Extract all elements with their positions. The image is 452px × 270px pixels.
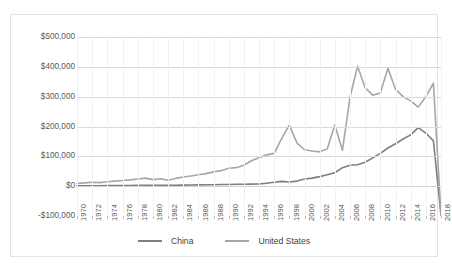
y-tick-label: $300,000 xyxy=(13,93,75,101)
x-tick xyxy=(426,216,427,219)
x-tick-label: 2000 xyxy=(308,204,316,221)
vertical-gridline xyxy=(244,37,245,216)
vertical-gridline xyxy=(107,37,108,216)
y-tick-label: $500,000 xyxy=(13,33,75,41)
x-tick xyxy=(396,216,397,219)
legend-item[interactable]: China xyxy=(138,236,193,246)
vertical-gridline xyxy=(123,37,124,216)
x-tick xyxy=(289,216,290,219)
x-tick xyxy=(77,216,78,219)
x-tick xyxy=(350,216,351,219)
y-tick-label: $100,000 xyxy=(13,152,75,160)
x-tick xyxy=(411,216,412,219)
vertical-gridline xyxy=(183,37,184,216)
plot-area xyxy=(77,37,441,216)
y-tick-label: $200,000 xyxy=(13,123,75,131)
y-tick-label: $400,000 xyxy=(13,63,75,71)
x-tick xyxy=(320,216,321,219)
vertical-gridline xyxy=(365,37,366,216)
x-tick-label: 1976 xyxy=(126,204,134,221)
x-tick-label: 2008 xyxy=(368,204,376,221)
x-tick-label: 1988 xyxy=(217,204,225,221)
x-tick xyxy=(92,216,93,219)
vertical-gridline xyxy=(289,37,290,216)
vertical-gridline xyxy=(350,37,351,216)
vertical-gridline xyxy=(153,37,154,216)
x-tick-label: 1982 xyxy=(171,204,179,221)
vertical-gridline xyxy=(396,37,397,216)
x-tick xyxy=(138,216,139,219)
x-tick-label: 1992 xyxy=(247,204,255,221)
x-tick-label: 1996 xyxy=(277,204,285,221)
x-tick xyxy=(274,216,275,219)
x-tick-label: 2006 xyxy=(353,204,361,221)
legend-swatch-icon xyxy=(225,240,249,243)
x-tick xyxy=(153,216,154,219)
vertical-gridline xyxy=(214,37,215,216)
vertical-gridline xyxy=(411,37,412,216)
x-tick xyxy=(441,216,442,219)
y-tick-label: -$100,000 xyxy=(13,212,75,220)
x-tick-label: 1984 xyxy=(186,204,194,221)
x-tick-label: 1998 xyxy=(293,204,301,221)
legend-item[interactable]: United States xyxy=(225,236,310,246)
vertical-gridline xyxy=(305,37,306,216)
x-tick xyxy=(380,216,381,219)
vertical-gridline xyxy=(441,37,442,216)
vertical-gridline xyxy=(274,37,275,216)
chart-container: $500,000$400,000$300,000$200,000$100,000… xyxy=(10,14,438,257)
chart-legend: ChinaUnited States xyxy=(11,236,437,246)
legend-swatch-icon xyxy=(138,240,162,243)
x-tick xyxy=(229,216,230,219)
x-tick-label: 1990 xyxy=(232,204,240,221)
x-tick xyxy=(214,216,215,219)
x-tick xyxy=(168,216,169,219)
x-tick xyxy=(305,216,306,219)
vertical-gridline xyxy=(92,37,93,216)
vertical-gridline xyxy=(335,37,336,216)
x-tick xyxy=(123,216,124,219)
x-tick-label: 1970 xyxy=(80,204,88,221)
x-tick xyxy=(244,216,245,219)
x-tick-label: 1980 xyxy=(156,204,164,221)
x-tick xyxy=(198,216,199,219)
x-tick-label: 2004 xyxy=(338,204,346,221)
vertical-gridline xyxy=(259,37,260,216)
x-tick-label: 2018 xyxy=(444,204,452,221)
x-tick-label: 1986 xyxy=(202,204,210,221)
x-tick xyxy=(259,216,260,219)
x-tick xyxy=(365,216,366,219)
x-tick-label: 1978 xyxy=(141,204,149,221)
x-tick xyxy=(335,216,336,219)
vertical-gridline xyxy=(426,37,427,216)
x-tick-label: 1994 xyxy=(262,204,270,221)
x-tick xyxy=(183,216,184,219)
x-tick xyxy=(107,216,108,219)
legend-label: United States xyxy=(258,236,310,246)
vertical-gridline xyxy=(380,37,381,216)
vertical-gridline xyxy=(138,37,139,216)
x-tick-label: 2016 xyxy=(429,204,437,221)
vertical-gridline xyxy=(320,37,321,216)
vertical-gridline xyxy=(77,37,78,216)
x-tick-label: 2014 xyxy=(414,204,422,221)
y-axis-labels: $500,000$400,000$300,000$200,000$100,000… xyxy=(11,15,75,258)
x-tick-label: 2010 xyxy=(384,204,392,221)
x-tick-label: 1974 xyxy=(111,204,119,221)
x-tick-label: 1972 xyxy=(95,204,103,221)
x-tick-label: 2012 xyxy=(399,204,407,221)
vertical-gridline xyxy=(198,37,199,216)
x-tick-label: 2002 xyxy=(323,204,331,221)
vertical-gridline xyxy=(168,37,169,216)
vertical-gridline xyxy=(229,37,230,216)
legend-label: China xyxy=(171,236,193,246)
y-tick-label: $0 xyxy=(13,182,75,190)
